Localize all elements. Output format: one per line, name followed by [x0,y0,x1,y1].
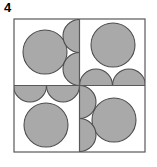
circle-full-bottom-left [24,103,68,147]
figure-container: 4 [0,0,157,167]
circle-full-bottom-right [92,98,136,142]
circle-full-top-left [23,30,67,74]
circle-full-top-right [91,23,135,67]
geometry-diagram [0,0,157,167]
